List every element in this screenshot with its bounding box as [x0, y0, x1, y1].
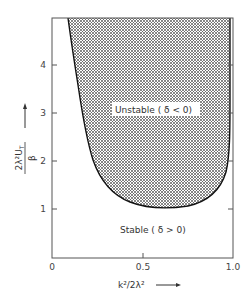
stable-label: Stable ( δ > 0) — [120, 225, 186, 235]
unstable-label: Unstable ( δ < 0) — [115, 105, 192, 115]
x-arrow-icon — [156, 283, 181, 287]
y-tick-4: 4 — [40, 60, 46, 70]
y-axis-label: 2λ²UT β — [14, 142, 37, 174]
y-arrow-icon — [23, 103, 27, 128]
y-tick-1: 1 — [40, 204, 46, 214]
x-axis-label: k²/2λ² — [118, 280, 145, 290]
svg-text:β: β — [27, 155, 37, 161]
y-tick-3: 3 — [40, 108, 46, 118]
x-tick-0: 0 — [49, 262, 55, 272]
y-tick-2: 2 — [40, 156, 46, 166]
x-tick-0.5: 0.5 — [136, 262, 150, 272]
svg-text:2λ²UT: 2λ²UT — [14, 145, 25, 170]
x-tick-1.0: 1.0 — [226, 262, 241, 272]
stability-chart: 4 3 2 1 0 0.5 1.0 Unstable ( δ < 0) Stab… — [0, 0, 251, 304]
